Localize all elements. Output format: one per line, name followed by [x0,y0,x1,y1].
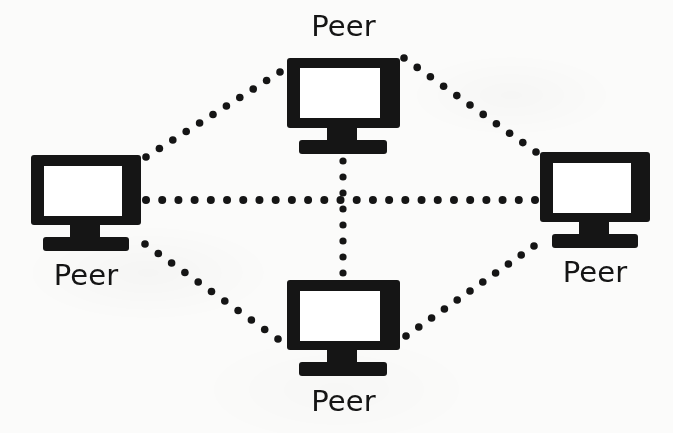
link-dot [440,82,448,90]
peer-label-left: Peer [31,261,141,290]
link-dot [191,196,199,204]
link-dot [492,269,500,277]
link-dot [466,287,474,295]
link-dot [519,139,527,147]
link-dot [517,251,525,259]
link-dot [207,196,215,204]
peer-label-bottom: Peer [287,387,400,416]
monitor-base [43,237,129,251]
peer-label-right: Peer [540,258,650,287]
link-dot [168,259,176,267]
link-dot [174,196,182,204]
link-dot [413,64,421,72]
link-dot [288,196,296,204]
link-dot [208,288,216,296]
link-dot [515,196,523,204]
link-dot [466,196,474,204]
link-dot [304,196,312,204]
link-dot [505,260,513,268]
link-dot [274,335,282,343]
link-dot [223,102,231,110]
link-dot [223,196,231,204]
link-dot [236,94,244,102]
link-dot [400,54,408,62]
link-left-top [142,68,284,161]
link-dot [401,196,409,204]
link-dot [453,296,461,304]
network-topology-graphic [0,0,673,433]
link-dot [221,297,229,305]
link-left-right [142,196,539,204]
link-top-bottom [339,157,346,276]
link-dot [272,196,280,204]
link-dot [194,278,202,286]
link-dot [531,196,539,204]
link-dot [261,326,269,334]
link-dot [479,111,487,119]
peer-nodes-layer [31,58,650,376]
link-dot [142,153,150,161]
link-dot [339,237,346,244]
diagram-canvas: Peer Peer Peer Peer [0,0,673,433]
link-dot [339,221,346,228]
monitor-screen [300,291,380,341]
monitor-base [552,234,638,248]
link-dot [255,196,263,204]
link-dot [453,92,461,100]
link-dot [141,240,149,248]
link-dot [339,269,346,276]
link-dot [493,120,501,128]
monitor-screen [44,166,122,216]
link-dot [415,323,423,331]
link-dot [239,196,247,204]
monitor-base [299,140,387,154]
link-dot [353,196,361,204]
link-dot [434,196,442,204]
peer-left [31,155,141,251]
link-dot [385,196,393,204]
link-dot [234,307,242,315]
link-dot [339,157,346,164]
link-top-right [400,54,540,156]
link-dot [337,196,345,204]
monitor-neck [579,222,609,236]
link-dot [181,269,189,277]
link-dot [506,129,514,137]
link-dot [339,189,346,196]
peer-top [287,58,400,154]
link-dot [466,101,474,109]
link-dot [182,128,190,136]
link-dot [479,278,487,286]
monitor-screen [300,68,380,118]
link-dot [169,136,177,144]
link-bottom-right [402,242,538,340]
peer-bottom [287,280,400,376]
peer-label-top: Peer [287,12,400,41]
link-dot [209,111,217,119]
link-dot [369,196,377,204]
link-dot [155,250,163,258]
link-dot [156,145,164,153]
link-dot [263,77,271,85]
monitor-neck [327,350,357,364]
link-dot [482,196,490,204]
link-dot [249,85,257,93]
peer-right [540,152,650,248]
link-dot [530,242,538,250]
link-dot [339,253,346,260]
link-dot [142,196,150,204]
link-dot [418,196,426,204]
link-dot [532,148,540,156]
link-left-bottom [141,240,282,343]
link-dot [196,119,204,127]
link-dot [339,173,346,180]
link-dot [248,316,256,324]
monitor-neck [70,225,100,239]
monitor-base [299,362,387,376]
link-dot [499,196,507,204]
link-dot [441,305,449,313]
link-dot [339,205,346,212]
monitor-screen [553,163,631,213]
link-dot [427,73,435,81]
link-dot [428,314,436,322]
